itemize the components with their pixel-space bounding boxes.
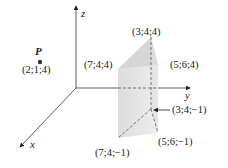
vertex-label-5-6-m1: (5;6;−1) bbox=[158, 136, 193, 148]
x-axis-label: x bbox=[29, 138, 35, 150]
point-p-name: P bbox=[35, 45, 42, 57]
vertex-label-5-6-4: (5;6;4) bbox=[170, 59, 199, 71]
coordinate-diagram: z y x P (2;1;4) (7;4;4) (3;4;4) (5;6;4) … bbox=[0, 0, 228, 168]
z-axis-label: z bbox=[80, 7, 86, 19]
vertex-label-3-4-m1: (3;4;−1) bbox=[172, 104, 207, 116]
vertex-label-7-4-4: (7;4;4) bbox=[84, 59, 113, 71]
vertex-label-7-4-m1: (7;4;−1) bbox=[95, 147, 130, 159]
point-p-coords: (2;1;4) bbox=[22, 64, 51, 76]
vertex-label-3-4-4: (3;4;4) bbox=[132, 26, 161, 38]
x-axis bbox=[20, 88, 76, 147]
y-axis-label: y bbox=[184, 89, 190, 101]
